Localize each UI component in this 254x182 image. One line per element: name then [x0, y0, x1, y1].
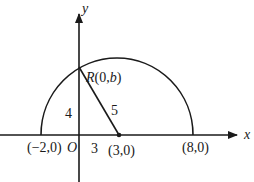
hypotenuse-length-label: 5 — [111, 103, 118, 118]
center-point-label: (3,0) — [108, 143, 135, 159]
right-endpoint-label: (8,0) — [182, 140, 209, 156]
vertical-length-label: 4 — [65, 106, 72, 121]
y-axis-label: y — [80, 1, 89, 16]
point-r-label: R(0,b) — [85, 70, 122, 86]
left-endpoint-label: (−2,0) — [27, 140, 62, 156]
center-point — [117, 133, 122, 138]
x-axis-label: x — [243, 127, 251, 142]
horizontal-length-label: 3 — [91, 141, 98, 156]
coordinate-diagram: y x O R(0,b) (−2,0) (3,0) (8,0) 4 3 5 — [0, 0, 254, 182]
origin-label: O — [67, 140, 77, 155]
